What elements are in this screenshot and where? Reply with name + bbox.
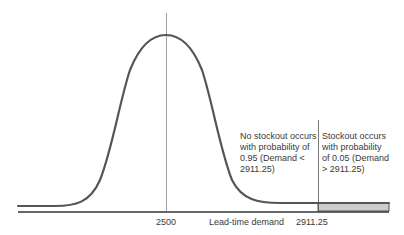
x-axis-label: Lead-time demand	[209, 217, 284, 227]
tick-reorder-point: 2911.25	[296, 217, 328, 227]
no-stockout-annotation: No stockout occurs with probability of 0…	[240, 131, 317, 175]
annotation-line: 0.95 (Demand <	[240, 153, 317, 164]
annotation-line: Stockout occurs	[322, 131, 389, 142]
annotation-line: > 2911.25)	[322, 164, 389, 175]
tick-mean: 2500	[156, 217, 176, 227]
normal-distribution-chart	[0, 0, 404, 235]
stockout-shaded-region	[318, 203, 389, 211]
annotation-line: 2911.25)	[240, 164, 317, 175]
annotation-line: with probability of	[240, 142, 317, 153]
annotation-line: with probability	[322, 142, 389, 153]
stockout-annotation: Stockout occurs with probability of 0.05…	[322, 131, 389, 175]
annotation-line: No stockout occurs	[240, 131, 317, 142]
normal-curve	[18, 35, 389, 206]
annotation-line: of 0.05 (Demand	[322, 153, 389, 164]
